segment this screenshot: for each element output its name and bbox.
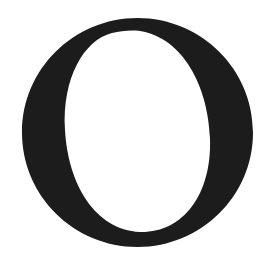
letter-canvas: O <box>0 0 275 267</box>
letter-o-glyph <box>0 0 275 267</box>
